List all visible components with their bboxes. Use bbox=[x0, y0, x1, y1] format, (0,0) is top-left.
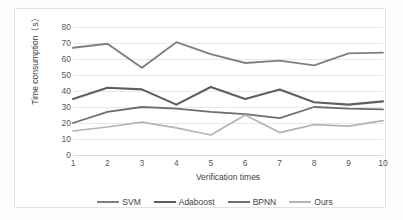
y-axis-tick-label: 80 bbox=[41, 23, 71, 32]
series-line-ours bbox=[73, 115, 383, 135]
legend-swatch-icon bbox=[228, 201, 250, 203]
y-axis-tick-labels: 80706050403020100 bbox=[41, 27, 71, 155]
y-axis-tick-label: 70 bbox=[41, 39, 71, 48]
y-axis-tick-label: 50 bbox=[41, 71, 71, 80]
y-axis-tick-label: 20 bbox=[41, 119, 71, 128]
chart-legend: SVMAdaboostBPNNOurs bbox=[35, 195, 395, 209]
series-lines bbox=[73, 27, 383, 155]
y-axis-tick-label: 60 bbox=[41, 55, 71, 64]
x-axis-tick-label: 10 bbox=[378, 159, 387, 168]
y-axis-tick-label: 30 bbox=[41, 103, 71, 112]
y-axis-tick-label: 10 bbox=[41, 135, 71, 144]
legend-item-adaboost[interactable]: Adaboost bbox=[154, 198, 215, 207]
x-axis-tick-label: 9 bbox=[346, 159, 351, 168]
x-axis-tick-label: 4 bbox=[174, 159, 179, 168]
legend-item-bpnn[interactable]: BPNN bbox=[228, 198, 277, 207]
legend-swatch-icon bbox=[289, 201, 311, 203]
series-line-adaboost bbox=[73, 87, 383, 105]
legend-swatch-icon bbox=[154, 201, 176, 203]
legend-swatch-icon bbox=[97, 201, 119, 203]
legend-label: BPNN bbox=[253, 198, 277, 207]
chart-figure: 80706050403020100 Time consumption（s） 12… bbox=[0, 0, 403, 220]
x-axis-tick-label: 6 bbox=[243, 159, 248, 168]
plot-area bbox=[73, 27, 383, 155]
legend-item-ours[interactable]: Ours bbox=[289, 198, 332, 207]
legend-label: Ours bbox=[314, 198, 332, 207]
y-axis-tick-label: 0 bbox=[41, 151, 71, 160]
x-axis-tick-label: 3 bbox=[140, 159, 145, 168]
x-axis-tick-label: 7 bbox=[277, 159, 282, 168]
y-axis-tick-label: 40 bbox=[41, 87, 71, 96]
gridline bbox=[73, 155, 383, 156]
x-axis-tick-label: 1 bbox=[71, 159, 76, 168]
x-axis-title: Verification times bbox=[73, 172, 383, 182]
x-axis-tick-labels: 12345678910 bbox=[73, 159, 383, 171]
y-axis-title: Time consumption（s） bbox=[28, 4, 40, 114]
series-line-bpnn bbox=[73, 107, 383, 123]
chart-frame: 80706050403020100 Time consumption（s） 12… bbox=[14, 8, 386, 208]
x-axis-tick-label: 5 bbox=[208, 159, 213, 168]
x-axis-tick-label: 2 bbox=[105, 159, 110, 168]
legend-label: Adaboost bbox=[179, 198, 215, 207]
series-line-svm bbox=[73, 42, 383, 68]
legend-label: SVM bbox=[122, 198, 140, 207]
x-axis-tick-label: 8 bbox=[312, 159, 317, 168]
legend-item-svm[interactable]: SVM bbox=[97, 198, 140, 207]
